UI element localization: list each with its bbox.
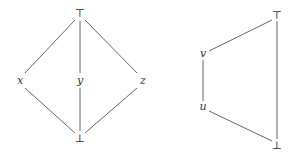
edge-top-z <box>85 20 137 73</box>
diagram-n5: ⊤ v u ⊥ <box>199 9 282 152</box>
node-v: v <box>200 47 207 60</box>
node-bottom-m3: ⊥ <box>75 132 85 145</box>
node-z: z <box>139 74 146 87</box>
lattice-diagrams: ⊤ x y z ⊥ ⊤ v u ⊥ <box>0 0 296 160</box>
edge-z-bot <box>85 88 137 133</box>
diagram-m3: ⊤ x y z ⊥ <box>17 7 146 145</box>
edge-top-v <box>209 20 272 51</box>
node-top-n5: ⊤ <box>272 9 282 22</box>
edge-u-bot <box>209 111 272 141</box>
edge-top-x <box>25 20 75 73</box>
node-x: x <box>17 74 24 87</box>
edge-x-bot <box>25 88 75 133</box>
node-top-m3: ⊤ <box>75 7 85 20</box>
node-bottom-n5: ⊥ <box>272 139 282 152</box>
node-y: y <box>76 74 84 87</box>
node-u: u <box>199 100 206 113</box>
